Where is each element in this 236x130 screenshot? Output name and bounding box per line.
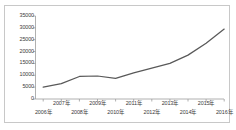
x-axis-tick-label: 2014年: [180, 110, 197, 115]
x-axis-tick-label: 2012年: [144, 110, 161, 115]
x-axis-tick-label: 2015年: [198, 101, 215, 106]
x-axis-tick-label: 2013年: [162, 101, 179, 106]
x-axis-labels: 2006年2007年2008年2009年2010年2011年2012年2013年…: [0, 0, 236, 130]
x-axis-tick-label: 2008年: [71, 110, 88, 115]
x-axis-tick-label: 2010年: [107, 110, 124, 115]
x-axis-tick-label: 2016年: [216, 110, 233, 115]
x-axis-tick-label: 2011年: [126, 101, 142, 106]
x-axis-tick-label: 2006年: [35, 110, 52, 115]
x-axis-tick-label: 2009年: [89, 101, 106, 106]
x-axis-tick-label: 2007年: [53, 101, 70, 106]
